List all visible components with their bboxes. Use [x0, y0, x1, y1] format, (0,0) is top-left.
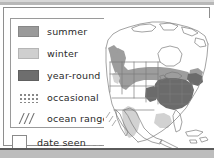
range-map-svg [104, 18, 210, 150]
swatch-summer-icon [18, 26, 39, 37]
swatch-year-round-icon [18, 70, 39, 81]
worksheet-root: summer winter year-round occasional ocea… [0, 0, 214, 158]
legend-label-occasional: occasional [47, 92, 99, 103]
swatch-occasional-dots-icon [18, 92, 39, 103]
legend-label-year-round: year-round [47, 70, 101, 81]
legend-label-winter: winter [47, 48, 78, 59]
date-seen-label: date seen [37, 137, 86, 148]
swatch-winter-icon [18, 48, 39, 59]
bottom-chrome-bar [0, 150, 214, 158]
top-chrome-highlight [0, 0, 214, 2]
north-america-range-map [104, 18, 210, 150]
top-chrome-bar [0, 0, 214, 5]
worksheet-panel: summer winter year-round occasional ocea… [3, 7, 210, 146]
legend-label-ocean-range: ocean range [47, 113, 109, 124]
swatch-ocean-range-hatch-icon [18, 113, 39, 124]
legend-label-summer: summer [47, 26, 87, 37]
